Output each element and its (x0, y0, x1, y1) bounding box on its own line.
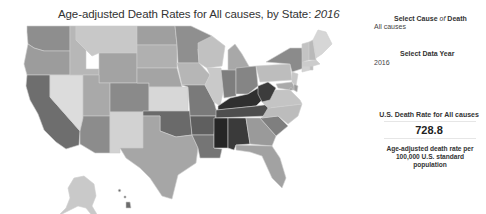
map-canvas[interactable] (0, 0, 340, 214)
controls-panel: Select Cause of Death All causes Select … (372, 0, 486, 214)
state-me[interactable] (313, 30, 332, 58)
state-vt[interactable] (302, 42, 309, 62)
state-nm[interactable] (110, 112, 143, 153)
state-dc[interactable] (290, 88, 292, 90)
state-ar[interactable] (190, 116, 216, 135)
cause-label-prefix: Select Cause (394, 15, 440, 22)
state-ks[interactable] (149, 87, 188, 111)
state-wy[interactable] (99, 53, 137, 83)
rate-footnote: Age-adjusted death rate per 100,000 U.S.… (382, 145, 478, 169)
state-wi[interactable] (198, 36, 225, 68)
divider (384, 121, 476, 122)
state-co[interactable] (110, 83, 149, 112)
state-de[interactable] (294, 84, 298, 92)
state-hi[interactable] (118, 189, 131, 208)
state-az[interactable] (80, 116, 110, 153)
cause-label-suffix: Death (445, 15, 466, 22)
us-rate-value: 728.8 (372, 124, 486, 136)
state-in[interactable] (221, 70, 236, 98)
us-rate-label: U.S. Death Rate for All causes (372, 111, 486, 118)
state-sd[interactable] (137, 45, 177, 68)
state-fl[interactable] (236, 145, 286, 188)
state-ct[interactable] (302, 66, 310, 72)
divider (384, 138, 476, 139)
state-ms[interactable] (214, 118, 228, 148)
cause-select[interactable]: All causes (374, 23, 406, 30)
state-pa[interactable] (256, 64, 292, 82)
year-select[interactable]: 2016 (374, 59, 390, 66)
cause-select-label: Select Cause of Death (394, 15, 467, 22)
state-nd[interactable] (137, 26, 177, 45)
state-ri[interactable] (310, 66, 313, 70)
year-select-label: Select Data Year (400, 50, 454, 57)
state-ak[interactable] (58, 176, 98, 214)
state-wa[interactable] (27, 26, 70, 51)
